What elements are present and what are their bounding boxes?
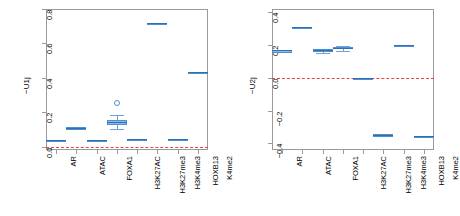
x-tick-mark	[117, 150, 118, 154]
box-median-line	[107, 122, 127, 123]
box-median-line	[414, 136, 434, 137]
y-axis-label: −U1j	[22, 77, 31, 94]
x-tick-mark	[97, 150, 98, 154]
y-axis-label: −U2j	[248, 77, 257, 94]
box-median-line	[147, 23, 167, 24]
y-tick-label: 0.4	[45, 78, 54, 88]
x-tick-label-foxa1: FOXA1	[350, 156, 359, 181]
x-tick-label-hoxb13: HOXB13	[436, 156, 445, 186]
x-tick-mark	[137, 150, 138, 154]
x-tick-mark	[198, 150, 199, 154]
x-tick-mark	[178, 150, 179, 154]
x-tick-mark	[282, 150, 283, 154]
box-median-line	[373, 135, 393, 136]
box-whisker-cap-lower	[110, 129, 124, 130]
x-tick-label-h3k27ac: H3K27AC	[153, 156, 162, 189]
x-tick-label-k4me2: K4me2	[451, 156, 460, 180]
x-tick-label-h3k4me3: H3K4me3	[420, 156, 429, 189]
x-tick-mark	[157, 150, 158, 154]
x-tick-label-atac: ATAC	[98, 156, 107, 175]
box-median-line	[188, 72, 208, 73]
x-tick-label-hoxb13: HOXB13	[210, 156, 219, 186]
x-tick-label-ar: AR	[70, 156, 79, 166]
y-tick-label: 0.8	[45, 10, 54, 20]
x-tick-mark	[323, 150, 324, 154]
y-tick-label: 0.2	[45, 113, 54, 123]
x-tick-mark	[343, 150, 344, 154]
y-tick-mark	[268, 143, 272, 144]
panel-u2: −0.4−0.20.00.20.4−U2jARATACFOXA1H3K27ACH…	[226, 0, 451, 216]
x-tick-mark	[76, 150, 77, 154]
box-median-line	[46, 140, 66, 141]
box-median-line	[292, 27, 312, 28]
box-outlier-point	[114, 100, 120, 106]
y-tick-mark	[268, 111, 272, 112]
x-tick-label-foxa1: FOXA1	[124, 156, 133, 181]
box-median-line	[313, 50, 333, 51]
box-median-line	[333, 48, 353, 49]
reference-line-zero	[46, 147, 208, 148]
x-tick-label-h3k27me3: H3K27me3	[178, 156, 187, 194]
x-tick-label-ar: AR	[296, 156, 305, 166]
box-median-line	[168, 139, 188, 140]
box-whisker-cap-upper	[110, 115, 124, 116]
box-median-line	[127, 139, 147, 140]
box-median-line	[66, 128, 86, 129]
box-median-line	[353, 78, 373, 79]
x-tick-mark	[363, 150, 364, 154]
x-tick-mark	[302, 150, 303, 154]
box-median-line	[272, 50, 292, 51]
x-tick-mark	[404, 150, 405, 154]
x-tick-label-h3k27me3: H3K27me3	[404, 156, 413, 194]
x-tick-label-atac: ATAC	[324, 156, 333, 175]
box-median-line	[394, 45, 414, 46]
x-tick-mark	[383, 150, 384, 154]
panel-u1: 0.00.20.40.60.8−U1jARATACFOXA1H3K27ACH3K…	[0, 0, 225, 216]
box-median-line	[87, 140, 107, 141]
x-tick-mark	[56, 150, 57, 154]
x-tick-mark	[424, 150, 425, 154]
box-whisker-lower	[117, 125, 118, 129]
box-whisker-cap-lower	[316, 53, 330, 54]
y-tick-label: −0.2	[275, 111, 284, 126]
y-tick-label: 0.4	[271, 13, 280, 23]
y-tick-label: 0.0	[45, 147, 54, 157]
box-whisker-cap-lower	[336, 51, 350, 52]
y-tick-label: 0.6	[45, 44, 54, 54]
y-tick-label: 0.0	[271, 78, 280, 88]
x-tick-label-h3k4me3: H3K4me3	[194, 156, 203, 189]
x-tick-label-h3k27ac: H3K27AC	[379, 156, 388, 189]
